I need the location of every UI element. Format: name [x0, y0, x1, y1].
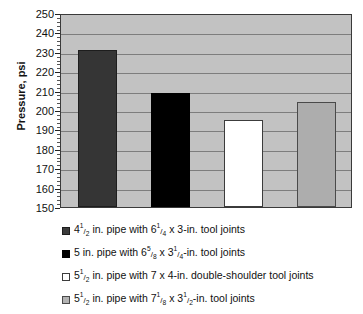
bar-chart-figure: Pressure, psi 25024023022021020019018017…: [0, 0, 363, 314]
fraction: 1/2: [183, 293, 193, 307]
legend-item-label: 51/2 in. pipe with 7 x 4-in. double-shou…: [74, 269, 314, 284]
white-swatch: [62, 273, 70, 281]
dark-gray-swatch: [62, 227, 70, 235]
tick-major: [55, 208, 60, 209]
y-tick-label-240: 240: [24, 27, 54, 39]
y-tick-label-190: 190: [24, 124, 54, 136]
fraction: 1/2: [80, 270, 90, 284]
y-tick-label-220: 220: [24, 66, 54, 78]
legend-item-0[interactable]: 41/2 in. pipe with 61/4 x 3-in. tool joi…: [62, 219, 362, 242]
y-tick-label-230: 230: [24, 47, 54, 59]
bar-series-2: [224, 120, 263, 207]
y-tick-label-180: 180: [24, 144, 54, 156]
fraction: 1/2: [80, 224, 90, 238]
legend-item-3[interactable]: 51/2 in. pipe with 71/8 x 31/2-in. tool …: [62, 288, 362, 311]
chart-legend: 41/2 in. pipe with 61/4 x 3-in. tool joi…: [62, 219, 362, 311]
fraction: 1/2: [80, 293, 90, 307]
fraction: 5/8: [147, 247, 157, 261]
y-tick-label-150: 150: [24, 202, 54, 214]
y-tick-label-170: 170: [24, 163, 54, 175]
y-axis-tick-labels: 250240230220210200190180170160150: [24, 8, 54, 214]
bar-series-1: [151, 93, 190, 207]
y-tick-label-210: 210: [24, 86, 54, 98]
legend-item-label: 41/2 in. pipe with 61/4 x 3-in. tool joi…: [74, 223, 245, 238]
plot-area: [60, 14, 352, 208]
legend-item-label: 51/2 in. pipe with 71/8 x 31/2-in. tool …: [74, 292, 255, 307]
y-tick-label-200: 200: [24, 105, 54, 117]
bars-layer: [61, 15, 351, 207]
legend-item-2[interactable]: 51/2 in. pipe with 7 x 4-in. double-shou…: [62, 265, 362, 288]
bar-series-0: [78, 50, 117, 207]
light-gray-swatch: [62, 296, 70, 304]
legend-item-label: 5 in. pipe with 65/8 x 31/4-in. tool joi…: [74, 246, 245, 261]
fraction: 1/8: [157, 293, 167, 307]
black-swatch: [62, 250, 70, 258]
legend-item-1[interactable]: 5 in. pipe with 65/8 x 31/4-in. tool joi…: [62, 242, 362, 265]
y-tick-label-160: 160: [24, 183, 54, 195]
fraction: 1/4: [174, 247, 184, 261]
y-tick-label-250: 250: [24, 8, 54, 20]
fraction: 1/4: [157, 224, 167, 238]
bar-series-3: [297, 102, 336, 207]
